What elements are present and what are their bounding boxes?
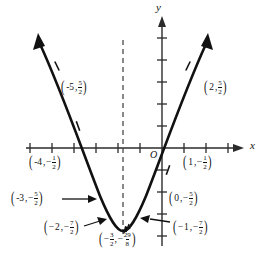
- fraction: 5 2: [218, 80, 223, 96]
- point-label-minus3: ( -3 , − 5 2 ): [10, 191, 44, 207]
- point-label-2: ( 2 , 5 2 ): [203, 80, 228, 96]
- fraction: 5 2: [189, 191, 194, 207]
- point-label-minus1: ( − 1 , − 7 2 ): [172, 220, 209, 236]
- paren-open: (: [99, 233, 103, 246]
- paren-open: (: [61, 81, 65, 94]
- point-label-vertex: ( − 3 2 , − 29 8 ): [98, 232, 137, 248]
- fraction: 5 2: [34, 191, 39, 207]
- x-axis-label: x: [250, 140, 255, 151]
- point-label-minus4: ( -4 , − 1 2 ): [28, 155, 62, 171]
- paren-close: ): [132, 233, 136, 246]
- paren-close: ): [194, 192, 198, 205]
- fraction: 7 2: [199, 220, 204, 236]
- paren-close: ): [75, 221, 79, 234]
- paren-close: ): [57, 156, 61, 169]
- fraction: 1 2: [203, 155, 208, 171]
- point-label-0: ( 0 , − 5 2 ): [168, 191, 199, 207]
- paren-open: (: [44, 221, 48, 234]
- origin-label: O: [150, 150, 157, 160]
- y-axis-label: y: [156, 2, 161, 13]
- fraction: 1 2: [52, 155, 57, 171]
- paren-open: (: [11, 192, 15, 205]
- paren-close: ): [208, 156, 212, 169]
- point-label-minus5: ( -5 , 5 2 ): [60, 80, 88, 96]
- paren-open: (: [169, 192, 173, 205]
- point-label-1: ( 1 , − 1 2 ): [182, 155, 213, 171]
- paren-open: (: [183, 156, 187, 169]
- paren-open: (: [29, 156, 33, 169]
- paren-close: ): [84, 81, 88, 94]
- paren-close: ): [204, 221, 208, 234]
- parabola-figure: y x O ( -5 , 5 2 ) ( 2 , 5 2 ): [0, 0, 273, 261]
- fraction-y: 29 8: [123, 232, 131, 248]
- paren-close: ): [39, 192, 43, 205]
- point-label-minus2: ( − 2 , − 7 2 ): [43, 220, 80, 236]
- fraction: 7 2: [70, 220, 75, 236]
- y-axis: [157, 16, 167, 246]
- fraction: 5 2: [78, 80, 83, 96]
- plot-canvas: [0, 0, 273, 261]
- paren-close: ): [223, 81, 227, 94]
- paren-open: (: [204, 81, 208, 94]
- paren-open: (: [173, 221, 177, 234]
